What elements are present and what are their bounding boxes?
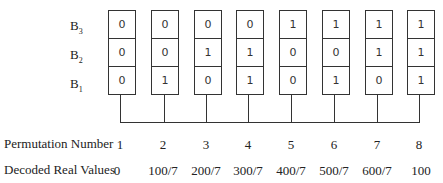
bit-column-3: 0 1 0 bbox=[194, 10, 222, 95]
permutation-number: 8 bbox=[394, 137, 443, 153]
bit-cell-b3: 1 bbox=[407, 10, 435, 39]
bit-cell-b2: 0 bbox=[108, 38, 136, 67]
bit-cell-b3: 0 bbox=[236, 10, 264, 39]
bit-cell-b3: 0 bbox=[151, 10, 179, 39]
bit-cell-b3: 0 bbox=[194, 10, 222, 39]
bit-column-4: 0 1 1 bbox=[236, 10, 264, 95]
bit-column-7: 1 1 0 bbox=[365, 10, 393, 95]
bit-cell-b2: 1 bbox=[365, 38, 393, 67]
bit-cell-b1: 1 bbox=[407, 66, 435, 95]
bit-cell-b3: 1 bbox=[365, 10, 393, 39]
row-label-base: B bbox=[70, 76, 79, 91]
row-label-base: B bbox=[70, 47, 79, 62]
row-label-sub: 2 bbox=[79, 56, 83, 65]
connector-stem bbox=[120, 95, 121, 123]
bit-cell-b2: 1 bbox=[236, 38, 264, 67]
decoded-value: 600/7 bbox=[352, 163, 402, 179]
bit-cell-b2: 1 bbox=[407, 38, 435, 67]
bit-cell-b2: 1 bbox=[194, 38, 222, 67]
connector-stem bbox=[334, 95, 335, 123]
connector-stem bbox=[248, 95, 249, 123]
row-label-b2: B2 bbox=[70, 47, 98, 65]
bit-cell-b2: 0 bbox=[322, 38, 350, 67]
connector-bar bbox=[120, 122, 420, 123]
bit-column-2: 0 0 1 bbox=[151, 10, 179, 95]
row-label-sub: 1 bbox=[79, 85, 83, 94]
bit-cell-b1: 1 bbox=[236, 66, 264, 95]
row-label-sub: 3 bbox=[79, 27, 83, 36]
bit-cell-b3: 1 bbox=[322, 10, 350, 39]
decoded-value: 0 bbox=[92, 163, 142, 179]
bit-cell-b1: 0 bbox=[365, 66, 393, 95]
bit-cell-b2: 0 bbox=[279, 38, 307, 67]
bit-cell-b1: 0 bbox=[108, 66, 136, 95]
connector-stem bbox=[419, 95, 420, 123]
bit-cell-b2: 0 bbox=[151, 38, 179, 67]
bit-cell-b1: 0 bbox=[279, 66, 307, 95]
decoded-value: 100 bbox=[396, 163, 443, 179]
connector-stem bbox=[206, 95, 207, 123]
bit-column-8: 1 1 1 bbox=[407, 10, 435, 95]
row-label-b3: B3 bbox=[70, 18, 98, 36]
bit-cell-b3: 1 bbox=[279, 10, 307, 39]
row-label-b1: B1 bbox=[70, 76, 98, 94]
bit-column-6: 1 0 1 bbox=[322, 10, 350, 95]
bit-cell-b1: 1 bbox=[151, 66, 179, 95]
bit-cell-b3: 0 bbox=[108, 10, 136, 39]
bit-column-5: 1 0 0 bbox=[279, 10, 307, 95]
connector-stem bbox=[164, 95, 165, 123]
connector-stem bbox=[377, 95, 378, 123]
bit-cell-b1: 0 bbox=[194, 66, 222, 95]
row-label-base: B bbox=[70, 18, 79, 33]
bit-cell-b1: 1 bbox=[322, 66, 350, 95]
connector-stem bbox=[291, 95, 292, 123]
bit-column-1: 0 0 0 bbox=[108, 10, 136, 95]
